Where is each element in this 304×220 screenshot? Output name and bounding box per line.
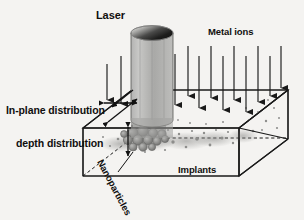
label-in-plane-distribution: In-plane distribution (6, 105, 105, 116)
laser-cylinder (131, 26, 173, 127)
label-depth-distribution: depth distribution (16, 138, 103, 149)
label-implants: Implants (178, 165, 216, 175)
label-laser: Laser (96, 10, 125, 21)
label-metal-ions: Metal ions (208, 27, 253, 37)
diagram-canvas: Laser Metal ions In-plane distribution d… (0, 0, 304, 220)
laser-beam-lower (131, 118, 173, 138)
